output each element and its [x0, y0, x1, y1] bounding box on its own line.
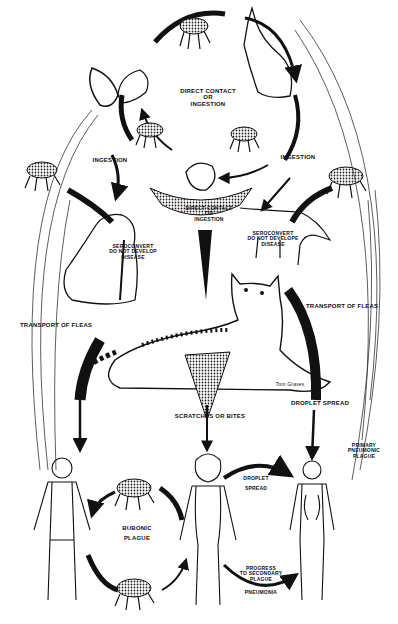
- flea-top: [180, 18, 210, 49]
- human-child-illustration: [290, 461, 334, 600]
- label-bubonic-plague: BUBONIC PLAGUE: [112, 524, 162, 543]
- flea-far-right: [327, 167, 366, 198]
- label-primary-pneumonic: PRIMARY PNEUMONIC PLAGUE: [336, 443, 392, 459]
- label-ingestion-left: INGESTION: [80, 157, 140, 163]
- cycle-arrow-top-right: [245, 18, 296, 80]
- human-man-illustration: [34, 458, 90, 600]
- cycle-arrow-right-down: [285, 95, 298, 160]
- flea-bottom-upper: [115, 479, 154, 510]
- label-droplet-spread-top: DROPLET SPREAD: [280, 400, 360, 406]
- label-droplet-spread-bottom: DROPLET SPREAD: [236, 474, 276, 493]
- cycle-arrow-bottom-right: [220, 165, 268, 178]
- label-ingestion-right: INGESTION: [268, 154, 328, 160]
- label-direct-contact-top: DIRECT CONTACT OR INGESTION: [162, 88, 254, 107]
- label-pneumonia: PNEUMONIA: [236, 590, 286, 595]
- artist-signature: Tom Graves: [272, 382, 308, 387]
- label-transport-left: TRANSPORT OF FLEAS: [20, 322, 120, 328]
- flea-far-left: [25, 162, 60, 191]
- label-dog-seroconvert: SEROCONVERT DO NOT DEVELOP DISEASE: [100, 244, 166, 260]
- label-transport-right: TRANSPORT OF FLEAS: [306, 303, 398, 309]
- label-scratches-or-bites: SCRATCHES OR BITES: [160, 413, 260, 419]
- flea-bottom-lower: [115, 579, 154, 610]
- flea-left-cycle: [136, 123, 163, 148]
- label-direct-contact-mid: DIRECT CONTACT OR INGESTION: [168, 206, 250, 222]
- flea-right-cycle: [230, 127, 259, 152]
- rabbit-illustration: [244, 8, 292, 97]
- label-coyote-seroconvert: SEROCONVERT DO NOT DEVELOPE DISEASE: [238, 231, 308, 247]
- label-progress-secondary: PROGRESS TO SECONDARY PLAGUE: [228, 566, 294, 582]
